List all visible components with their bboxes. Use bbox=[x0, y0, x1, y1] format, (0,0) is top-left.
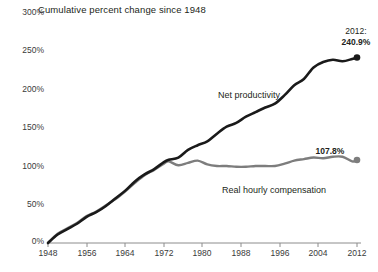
x-tick-label-1980: 1980 bbox=[186, 248, 218, 258]
x-tick-label-1964: 1964 bbox=[109, 248, 141, 258]
productivity-pay-gap-chart: Cumulative percent change since 1948 300… bbox=[0, 0, 378, 272]
chart-title: Cumulative percent change since 1948 bbox=[38, 4, 206, 15]
y-tick-label-50: 50% bbox=[0, 199, 44, 209]
endpoint-year-productivity: 2012: bbox=[330, 26, 378, 37]
x-tick-label-2012: 2012 bbox=[341, 248, 373, 258]
chart-plot-area bbox=[0, 0, 378, 272]
x-tick-label-1996: 1996 bbox=[264, 248, 296, 258]
x-tick-label-1948: 1948 bbox=[32, 248, 64, 258]
y-tick-label-0: 0% bbox=[0, 236, 44, 246]
y-tick-label-300: 300% bbox=[0, 7, 44, 17]
series-label-net-productivity: Net productivity bbox=[218, 90, 280, 100]
x-tick-label-1956: 1956 bbox=[71, 248, 103, 258]
endpoint-label-net-productivity: 2012: 240.9% bbox=[330, 26, 378, 48]
y-tick-label-100: 100% bbox=[0, 161, 44, 171]
endpoint-label-real-hourly-compensation: 107.8% bbox=[306, 146, 354, 156]
series-label-real-hourly-compensation: Real hourly compensation bbox=[222, 185, 326, 195]
y-tick-label-200: 200% bbox=[0, 84, 44, 94]
axis-group bbox=[48, 243, 361, 247]
endpoint-value-compensation: 107.8% bbox=[316, 146, 345, 156]
x-tick-label-2004: 2004 bbox=[302, 248, 334, 258]
y-tick-label-150: 150% bbox=[0, 122, 44, 132]
x-tick-label-1972: 1972 bbox=[148, 248, 180, 258]
x-tick-label-1988: 1988 bbox=[225, 248, 257, 258]
y-tick-label-250: 250% bbox=[0, 45, 44, 55]
endpoint-value-productivity: 240.9% bbox=[342, 37, 371, 47]
